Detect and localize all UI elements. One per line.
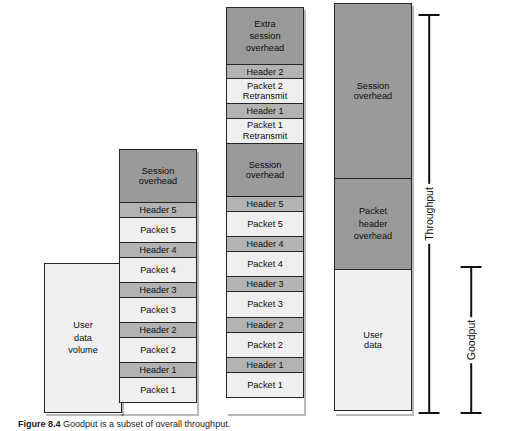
block-label: Packet 3 xyxy=(138,305,178,315)
block-packet-2: Packet 2 xyxy=(226,332,304,358)
block-user-data: Userdata xyxy=(334,269,412,411)
block-header-5: Header 5 xyxy=(226,196,304,212)
block-label: Header 1 xyxy=(244,106,285,116)
block-label: Header 2 xyxy=(244,67,285,77)
block-header-2: Header 2 xyxy=(226,64,304,79)
aggregate-column: SessionoverheadPacketheaderoverheadUserd… xyxy=(334,4,412,414)
block-session-overhead: Sessionoverhead xyxy=(226,143,304,197)
block-header-1: Header 1 xyxy=(226,103,304,118)
block-packet-4: Packet 4 xyxy=(119,257,197,283)
throughput-bracket: Throughput xyxy=(418,14,440,414)
block-label: Header 4 xyxy=(137,245,178,255)
block-packet-5: Packet 5 xyxy=(119,217,197,243)
block-label: Header 2 xyxy=(244,320,285,330)
block-label: Packet 2 xyxy=(245,340,285,350)
ideal-transmission-column: SessionoverheadHeader 5Packet 5Header 4P… xyxy=(119,150,197,414)
throughput-bracket-bottom-cap xyxy=(419,412,440,414)
user-data-volume-column: Userdatavolume xyxy=(44,264,122,414)
retransmission-column: ExtrasessionoverheadHeader 2Packet 2Retr… xyxy=(226,8,304,414)
block-packet-4: Packet 4 xyxy=(226,251,304,277)
block-session-overhead: Sessionoverhead xyxy=(119,149,197,203)
block-label: Sessionoverhead xyxy=(352,81,394,102)
block-label: Packetheaderoverhead xyxy=(352,205,394,242)
goodput-bracket-bottom-cap xyxy=(461,412,482,414)
block-header-4: Header 4 xyxy=(119,242,197,258)
block-label: Packet 1Retransmit xyxy=(241,120,289,141)
block-packet-3: Packet 3 xyxy=(119,297,197,323)
block-header-3: Header 3 xyxy=(226,276,304,292)
block-header-4: Header 4 xyxy=(226,236,304,252)
block-packet-2: Packet 2 xyxy=(119,337,197,363)
block-label: Sessionoverhead xyxy=(137,166,179,187)
block-header-1: Header 1 xyxy=(226,357,304,373)
block-packet-1: Packet 1 xyxy=(226,372,304,398)
figure-caption-text: Goodput is a subset of overall throughpu… xyxy=(63,419,230,429)
goodput-bracket: Goodput xyxy=(460,266,482,414)
figure-canvas: Userdatavolume SessionoverheadHeader 5Pa… xyxy=(0,0,506,431)
block-label: Header 4 xyxy=(244,239,285,249)
block-label: Header 5 xyxy=(244,199,285,209)
block-label: Header 2 xyxy=(137,325,178,335)
block-header-1: Header 1 xyxy=(119,362,197,378)
block-extra-session-overhead: Extrasessionoverhead xyxy=(226,7,304,65)
goodput-label: Goodput xyxy=(464,317,478,363)
block-label: Packet 5 xyxy=(138,225,178,235)
block-packet-3: Packet 3 xyxy=(226,291,304,317)
block-label: Userdatavolume xyxy=(66,319,100,356)
block-label: Packet 1 xyxy=(138,385,178,395)
block-label: Userdata xyxy=(361,330,384,351)
block-label: Sessionoverhead xyxy=(244,160,286,181)
block-label: Packet 3 xyxy=(245,299,285,309)
block-label: Packet 4 xyxy=(138,265,178,275)
block-header-2: Header 2 xyxy=(226,317,304,333)
block-user-data-volume: Userdatavolume xyxy=(44,263,122,413)
block-packet-5: Packet 5 xyxy=(226,211,304,237)
block-header-3: Header 3 xyxy=(119,282,197,298)
figure-number: Figure 8.4 xyxy=(18,419,61,429)
block-packet-header-overhead: Packetheaderoverhead xyxy=(334,178,412,270)
block-label: Packet 5 xyxy=(245,219,285,229)
block-label: Header 5 xyxy=(137,205,178,215)
figure-caption: Figure 8.4 Goodput is a subset of overal… xyxy=(18,419,488,429)
block-label: Packet 2 xyxy=(138,345,178,355)
block-header-2: Header 2 xyxy=(119,322,197,338)
block-packet-2-retransmit: Packet 2Retransmit xyxy=(226,78,304,104)
throughput-label: Throughput xyxy=(422,184,436,244)
block-label: Header 1 xyxy=(137,365,178,375)
block-packet-1: Packet 1 xyxy=(119,377,197,403)
block-label: Header 1 xyxy=(244,360,285,370)
block-packet-1-retransmit: Packet 1Retransmit xyxy=(226,118,304,144)
block-header-5: Header 5 xyxy=(119,202,197,218)
block-label: Packet 1 xyxy=(245,380,285,390)
block-label: Packet 4 xyxy=(245,259,285,269)
block-label: Header 3 xyxy=(137,285,178,295)
block-session-overhead: Sessionoverhead xyxy=(334,3,412,179)
block-label: Extrasessionoverhead xyxy=(244,18,286,55)
block-label: Header 3 xyxy=(244,279,285,289)
block-label: Packet 2Retransmit xyxy=(241,81,289,102)
